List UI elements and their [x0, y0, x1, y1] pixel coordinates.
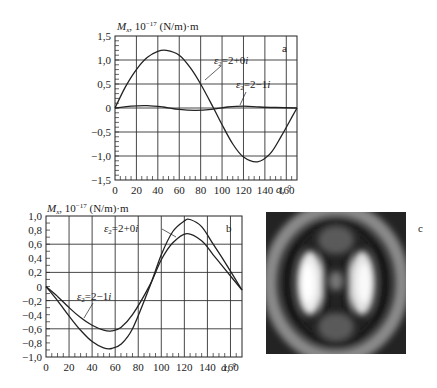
chart-a-leader-line-2: [240, 92, 246, 105]
figure-canvas: 0204060801001201401601,51,00,50−0,5−1,0−…: [0, 0, 437, 388]
y-tick-label: 1,5: [97, 30, 111, 42]
x-tick-label: 0: [43, 361, 49, 373]
y-tick-label: −0,6: [22, 323, 42, 335]
y-tick-label: −0,8: [22, 337, 42, 349]
x-tick-label: 20: [131, 184, 143, 196]
chart-a-series-label-2: ε2=2−1i: [236, 78, 270, 92]
chart-b-series-label-1: ε2=2+0i: [104, 222, 138, 236]
y-tick-label: −1,0: [91, 150, 111, 162]
chart-b-leader-line-2: [84, 303, 93, 318]
chart-b-ylabel: Mx, 10−17 (N/m)·m: [46, 202, 129, 216]
chart-a-panel-letter: a: [282, 42, 287, 54]
chart-a-xlabel: α, °: [276, 183, 292, 195]
x-tick-label: 120: [176, 361, 193, 373]
x-tick-label: 100: [153, 361, 170, 373]
x-tick-label: 40: [87, 361, 99, 373]
chart-a-curves: [115, 50, 297, 162]
chart-a-series-label-1: ε2=2+0i: [214, 54, 248, 68]
y-tick-label: −1,5: [91, 174, 111, 186]
x-tick-label: 20: [64, 361, 76, 373]
y-tick-label: 1,0: [97, 54, 111, 66]
y-tick-label: 0: [106, 102, 112, 114]
x-tick-label: 100: [214, 184, 231, 196]
x-tick-label: 60: [174, 184, 186, 196]
chart-panel-a: 0204060801001201401601,51,00,50−0,5−1,0−…: [91, 20, 297, 196]
y-tick-label: 0,2: [28, 266, 42, 278]
y-tick-label: −0,2: [22, 295, 42, 307]
y-tick-label: 0,8: [28, 224, 42, 236]
x-tick-label: 40: [152, 184, 164, 196]
chart-b-grid: [46, 216, 242, 357]
chart-a-ylabel: Mx, 10−17 (N/m)·m: [116, 20, 199, 34]
chart-b-series-label-2: ε2=2−1i: [77, 290, 111, 304]
image-panel-c: c: [266, 209, 423, 357]
image-c-panel-letter: c: [418, 222, 423, 234]
series-curve-1: [46, 219, 242, 349]
chart-a-leader-line-1: [205, 66, 221, 80]
x-tick-label: 120: [235, 184, 252, 196]
chart-b-curves: [46, 219, 242, 349]
chart-panel-b: 0204060801001201401601,00,80,60,40,20−0,…: [22, 202, 242, 373]
chart-b-xlabel: α, °: [221, 361, 237, 373]
plot-frame: [46, 216, 242, 357]
x-tick-label: 0: [112, 184, 118, 196]
y-tick-label: 0,5: [97, 78, 111, 90]
x-tick-label: 60: [110, 361, 122, 373]
chart-b-panel-letter: b: [226, 222, 232, 234]
y-tick-label: −0,4: [22, 309, 42, 321]
y-tick-label: 0,4: [28, 252, 42, 264]
series-curve-2: [46, 234, 242, 332]
x-tick-label: 140: [257, 184, 274, 196]
x-tick-label: 80: [133, 361, 145, 373]
y-tick-label: 1,0: [28, 210, 42, 222]
y-tick-label: 0,6: [28, 238, 42, 250]
x-tick-label: 80: [195, 184, 207, 196]
y-tick-label: −1,0: [22, 351, 42, 363]
x-tick-label: 140: [199, 361, 216, 373]
y-tick-label: 0: [37, 281, 43, 293]
y-tick-label: −0,5: [91, 126, 111, 138]
